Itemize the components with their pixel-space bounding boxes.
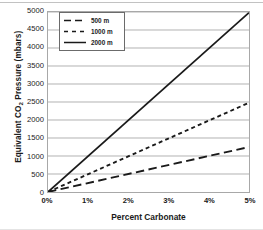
y-tick-label: 4500 bbox=[4, 25, 44, 33]
scan-artifact-bottom bbox=[0, 229, 263, 230]
series-line-1000m bbox=[48, 103, 249, 192]
legend-item-500m: 500 m bbox=[63, 15, 121, 26]
chart-figure: Equivalent CO2 Pressure (mbars) 05001000… bbox=[0, 0, 263, 230]
y-tick-label: 3000 bbox=[4, 80, 44, 88]
y-tick-label: 5000 bbox=[4, 7, 44, 15]
legend-swatch-short-dash-icon bbox=[63, 27, 87, 36]
legend-label-1000m: 1000 m bbox=[91, 28, 113, 35]
legend-label-2000m: 2000 m bbox=[91, 39, 113, 46]
y-tick-label: 500 bbox=[4, 171, 44, 179]
legend-item-1000m: 1000 m bbox=[63, 26, 121, 37]
x-tick-label: 2% bbox=[113, 196, 143, 205]
x-tick-label: 1% bbox=[73, 196, 103, 205]
y-tick-label: 4000 bbox=[4, 43, 44, 51]
x-axis-title: Percent Carbonate bbox=[47, 212, 250, 222]
x-tick-label: 0% bbox=[32, 196, 62, 205]
x-tick-label: 5% bbox=[235, 196, 263, 205]
y-tick-label: 3500 bbox=[4, 62, 44, 70]
y-tick-label: 2000 bbox=[4, 116, 44, 124]
y-tick-label: 1500 bbox=[4, 134, 44, 142]
y-tick-label: 1000 bbox=[4, 153, 44, 161]
legend-item-2000m: 2000 m bbox=[63, 37, 121, 48]
x-tick-label: 3% bbox=[154, 196, 184, 205]
legend-swatch-solid-icon bbox=[63, 38, 87, 47]
legend-label-500m: 500 m bbox=[91, 17, 109, 24]
legend: 500 m 1000 m 2000 m bbox=[59, 12, 125, 51]
x-tick-label: 4% bbox=[194, 196, 224, 205]
legend-swatch-long-dash-icon bbox=[63, 16, 87, 25]
series-line-500m bbox=[48, 147, 249, 192]
y-tick-label: 2500 bbox=[4, 98, 44, 106]
